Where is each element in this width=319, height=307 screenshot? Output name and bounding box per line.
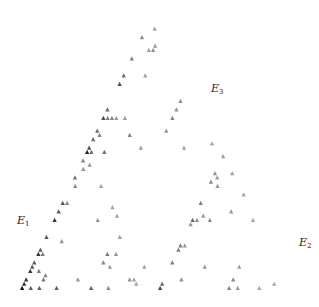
label-e1-letter: E: [17, 214, 25, 227]
label-e2: E2: [299, 237, 312, 250]
label-e3-subscript: 3: [219, 88, 223, 96]
label-e3: E3: [211, 83, 224, 96]
fractal-triangle-figure: [0, 0, 319, 307]
label-e2-letter: E: [299, 236, 307, 249]
label-e1: E1: [17, 215, 30, 228]
label-e1-subscript: 1: [25, 220, 29, 228]
fractal-marks: [20, 27, 276, 291]
label-e3-letter: E: [211, 82, 219, 95]
label-e2-subscript: 2: [307, 242, 311, 250]
